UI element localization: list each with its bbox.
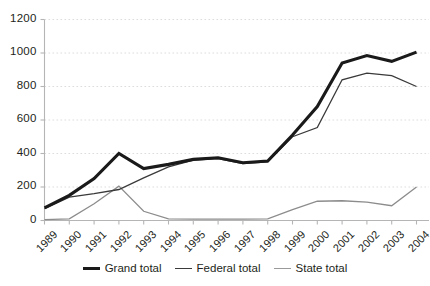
y-axis-tick-label: 400: [0, 146, 37, 158]
chart-legend: Grand totalFederal totalState total: [0, 262, 430, 274]
legend-item: State total: [274, 262, 348, 274]
legend-item: Grand total: [83, 262, 162, 274]
legend-line-swatch: [175, 268, 192, 269]
y-axis-ticks: [41, 20, 45, 221]
legend-label: Grand total: [105, 262, 162, 274]
legend-item: Federal total: [175, 262, 261, 274]
y-axis-tick-label: 200: [0, 179, 37, 191]
x-axis-ticks: [45, 221, 417, 225]
series-line-grand-total: [45, 52, 417, 208]
y-axis-tick-label: 800: [0, 79, 37, 91]
y-axis-tick-label: 1000: [0, 45, 37, 57]
legend-line-swatch: [83, 267, 100, 270]
line-chart: 120010008006004002000 198919901991199219…: [0, 0, 430, 286]
y-axis-tick-label: 1200: [0, 12, 37, 24]
series-lines: [45, 52, 417, 220]
series-line-state-total: [45, 186, 417, 220]
legend-line-swatch: [274, 268, 291, 269]
legend-label: State total: [296, 262, 348, 274]
legend-label: Federal total: [197, 262, 261, 274]
y-axis-tick-label: 0: [0, 213, 37, 225]
series-line-federal-total: [45, 73, 417, 209]
y-axis-tick-label: 600: [0, 112, 37, 124]
